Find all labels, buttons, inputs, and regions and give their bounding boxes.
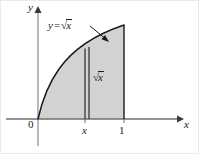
y-axis-label: y xyxy=(28,2,33,13)
curve-equation-radicand: x xyxy=(66,19,72,31)
x-tick-label-x: x xyxy=(82,125,87,136)
curve-equation-radical: √x xyxy=(61,19,72,31)
strip-height-label: √x xyxy=(93,71,104,83)
x-axis-label: x xyxy=(184,119,189,130)
x-tick-label-1: 1 xyxy=(119,125,125,136)
origin-label: 0 xyxy=(28,119,34,130)
sqrt-area-figure: y x 0 x 1 y=√x √x xyxy=(0,0,199,154)
y-axis-arrowhead xyxy=(34,6,41,13)
shaded-area-under-curve xyxy=(38,25,124,119)
x-axis-arrowhead xyxy=(177,115,184,122)
strip-radical: √x xyxy=(93,71,104,83)
curve-equation-equals: = xyxy=(53,19,61,31)
curve-equation-label: y=√x xyxy=(48,19,72,31)
strip-radicand: x xyxy=(98,71,104,83)
